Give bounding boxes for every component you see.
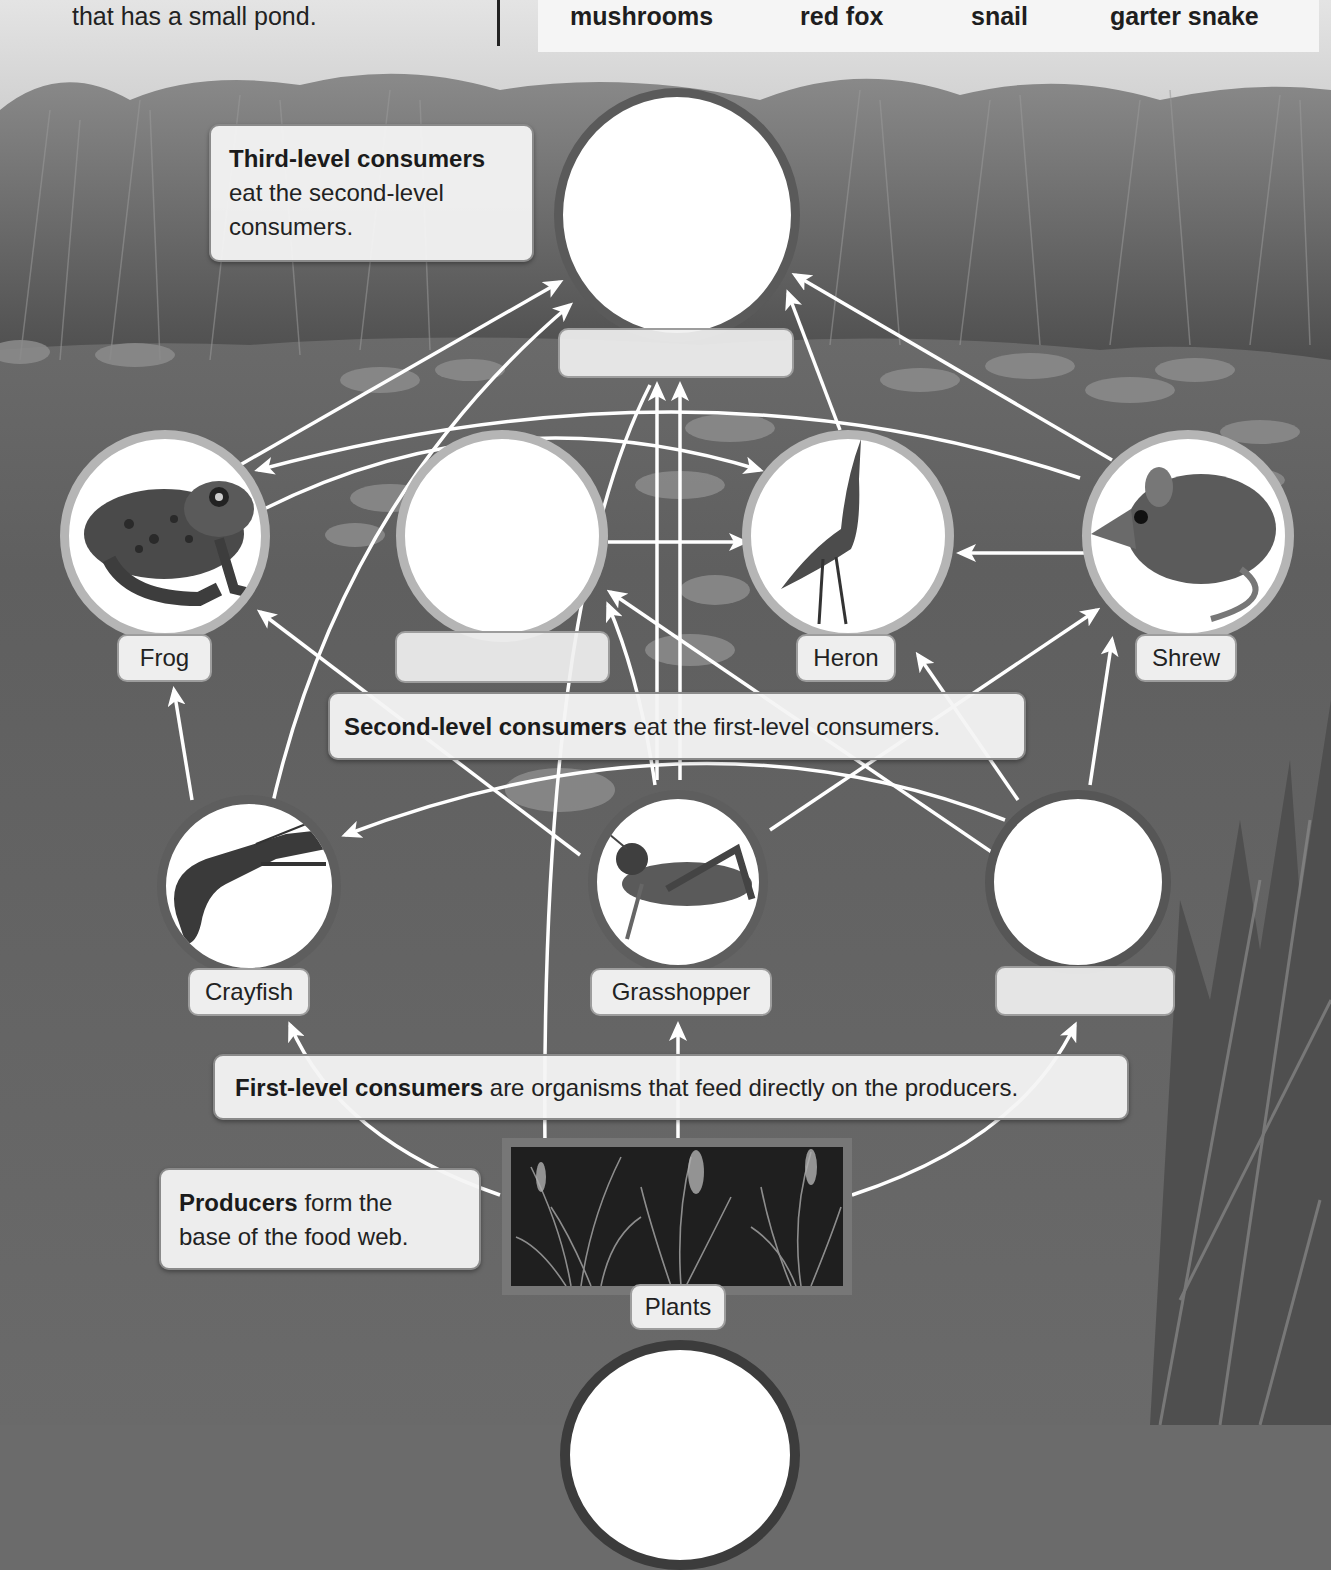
callout-producers: Producers form the base of the food web. bbox=[159, 1168, 481, 1270]
label-heron: Heron bbox=[796, 634, 896, 682]
crayfish-icon bbox=[166, 804, 332, 968]
word-bank-item[interactable]: mushrooms bbox=[570, 2, 713, 31]
callout-third-level-term: Third-level consumers bbox=[229, 145, 485, 172]
heron-icon bbox=[751, 439, 945, 633]
oval-first-level-blank[interactable] bbox=[985, 790, 1171, 974]
oval-shrew bbox=[1082, 430, 1294, 642]
callout-third-level: Third-level consumers eat the second-lev… bbox=[209, 124, 534, 262]
oval-heron bbox=[742, 430, 954, 642]
oval-second-level-blank[interactable] bbox=[396, 430, 608, 642]
divider bbox=[497, 0, 500, 46]
callout-first-level: First-level consumers are organisms that… bbox=[213, 1054, 1129, 1120]
label-crayfish: Crayfish bbox=[188, 968, 310, 1016]
oval-crayfish bbox=[157, 795, 341, 977]
oval-frog bbox=[60, 430, 270, 642]
label-shrew: Shrew bbox=[1135, 634, 1237, 682]
grasshopper-icon bbox=[597, 799, 759, 965]
word-bank-item[interactable]: snail bbox=[971, 2, 1028, 31]
shrew-icon bbox=[1091, 439, 1285, 633]
callout-first-level-term: First-level consumers bbox=[235, 1074, 483, 1101]
callout-second-level: Second-level consumers eat the first-lev… bbox=[328, 692, 1026, 760]
label-grasshopper: Grasshopper bbox=[590, 968, 772, 1016]
oval-decomposer-blank[interactable] bbox=[560, 1340, 800, 1570]
label-first-level-blank[interactable] bbox=[995, 966, 1175, 1016]
label-frog: Frog bbox=[117, 634, 212, 682]
plants-image bbox=[502, 1138, 852, 1295]
frog-icon bbox=[69, 439, 261, 633]
callout-second-level-term: Second-level consumers bbox=[344, 713, 627, 740]
word-bank-item[interactable]: garter snake bbox=[1110, 2, 1259, 31]
oval-grasshopper bbox=[588, 790, 768, 974]
word-bank-item[interactable]: red fox bbox=[800, 2, 883, 31]
label-plants: Plants bbox=[630, 1284, 726, 1330]
label-second-level-blank[interactable] bbox=[395, 631, 610, 683]
callout-producers-term: Producers bbox=[179, 1189, 298, 1216]
label-third-level-blank[interactable] bbox=[558, 328, 794, 378]
word-bank: mushrooms red fox snail garter snake bbox=[538, 0, 1319, 52]
intro-text: that has a small pond. bbox=[72, 2, 317, 31]
plants-icon bbox=[511, 1147, 843, 1286]
oval-third-level-blank[interactable] bbox=[554, 88, 800, 342]
